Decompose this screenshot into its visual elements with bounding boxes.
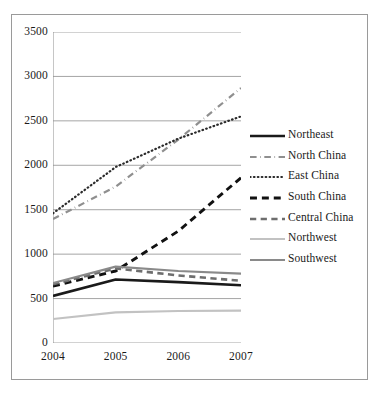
legend-label: South China: [288, 190, 346, 202]
legend-label: Central China: [288, 211, 354, 223]
legend-label: Northeast: [288, 128, 334, 140]
y-axis-tick-label: 500: [8, 292, 48, 304]
plot-area: [53, 32, 241, 343]
legend-item[interactable]: East China: [250, 165, 370, 186]
legend-item[interactable]: South China: [250, 186, 370, 207]
legend-item[interactable]: Northeast: [250, 124, 370, 145]
y-axis-tick-label: 3500: [8, 25, 48, 37]
legend-label: Northwest: [288, 231, 337, 243]
legend-line-swatch: [250, 190, 285, 202]
y-axis-tick-label: 3000: [8, 69, 48, 81]
y-axis-tick-label: 2000: [8, 158, 48, 170]
x-axis-tick-label: 2007: [218, 350, 264, 362]
legend-line-swatch: [250, 252, 285, 264]
legend-item[interactable]: North China: [250, 145, 370, 166]
legend-item[interactable]: Southwest: [250, 248, 370, 269]
legend-item[interactable]: Central China: [250, 206, 370, 227]
chart-legend: NortheastNorth ChinaEast ChinaSouth Chin…: [250, 124, 370, 268]
series-line: [53, 279, 241, 295]
legend-line-swatch: [250, 128, 285, 140]
legend-label: East China: [288, 169, 339, 181]
x-axis-tick-label: 2005: [93, 350, 139, 362]
y-axis-tick-label: 1000: [8, 247, 48, 259]
series-line: [53, 311, 241, 319]
chart-figure: 0500100015002000250030003500 20042005200…: [0, 0, 381, 395]
legend-line-swatch: [250, 149, 285, 161]
y-axis-tick-label: 0: [8, 336, 48, 348]
legend-line-swatch: [250, 211, 285, 223]
x-axis-tick-label: 2004: [30, 350, 76, 362]
legend-line-swatch: [250, 169, 285, 181]
y-axis-tick-label: 1500: [8, 203, 48, 215]
legend-item[interactable]: Northwest: [250, 227, 370, 248]
legend-line-swatch: [250, 231, 285, 243]
x-axis-tick-label: 2006: [155, 350, 201, 362]
line-chart-svg: [53, 32, 241, 343]
y-axis-tick-label: 2500: [8, 114, 48, 126]
legend-label: North China: [288, 149, 346, 161]
series-line: [53, 88, 241, 219]
legend-label: Southwest: [288, 252, 337, 264]
